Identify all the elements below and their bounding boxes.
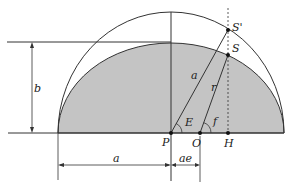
point-H — [226, 131, 230, 135]
point-P — [169, 131, 173, 135]
arrow-head-icon — [30, 127, 34, 133]
label-b: b — [34, 82, 41, 95]
point-O — [198, 131, 202, 135]
arrow-head-icon — [30, 42, 34, 48]
label-P: P — [161, 136, 170, 149]
arrow-head-icon — [171, 163, 176, 167]
label-S-prime: S' — [232, 21, 243, 34]
label-r: r — [211, 81, 217, 94]
arrow-head-icon — [165, 163, 171, 167]
orbit-diagram: b S' S a r E f P O H a ae — [0, 0, 288, 188]
label-S: S — [232, 42, 240, 55]
arrow-head-icon — [58, 163, 64, 167]
label-H: H — [223, 137, 234, 150]
label-a-dimension: a — [113, 152, 120, 165]
label-a-radius: a — [191, 69, 198, 82]
label-ae-dimension: ae — [179, 152, 193, 165]
arrow-head-icon — [195, 163, 200, 167]
label-E: E — [184, 116, 193, 129]
point-S-prime — [226, 28, 230, 32]
label-O: O — [192, 137, 201, 150]
point-S — [226, 53, 230, 57]
